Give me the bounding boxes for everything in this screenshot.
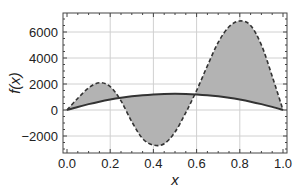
- y-tick-labels: −20000200040006000: [21, 25, 58, 144]
- x-axis-label: x: [170, 171, 179, 188]
- x-tick-label: 0.2: [101, 156, 119, 171]
- y-tick-label: 2000: [29, 77, 58, 92]
- y-tick-label: 4000: [29, 51, 58, 66]
- x-tick-label: 1.0: [274, 156, 292, 171]
- x-tick-label: 0.0: [58, 156, 76, 171]
- y-tick-label: 6000: [29, 25, 58, 40]
- x-tick-label: 0.8: [231, 156, 249, 171]
- y-tick-label: 0: [51, 103, 58, 118]
- x-tick-label: 0.6: [188, 156, 206, 171]
- chart: 0.00.20.40.60.81.0 −20000200040006000 x …: [0, 0, 298, 192]
- x-tick-labels: 0.00.20.40.60.81.0: [58, 156, 292, 171]
- y-axis-label: f(x): [6, 72, 23, 94]
- x-tick-label: 0.4: [144, 156, 162, 171]
- y-tick-label: −2000: [21, 129, 58, 144]
